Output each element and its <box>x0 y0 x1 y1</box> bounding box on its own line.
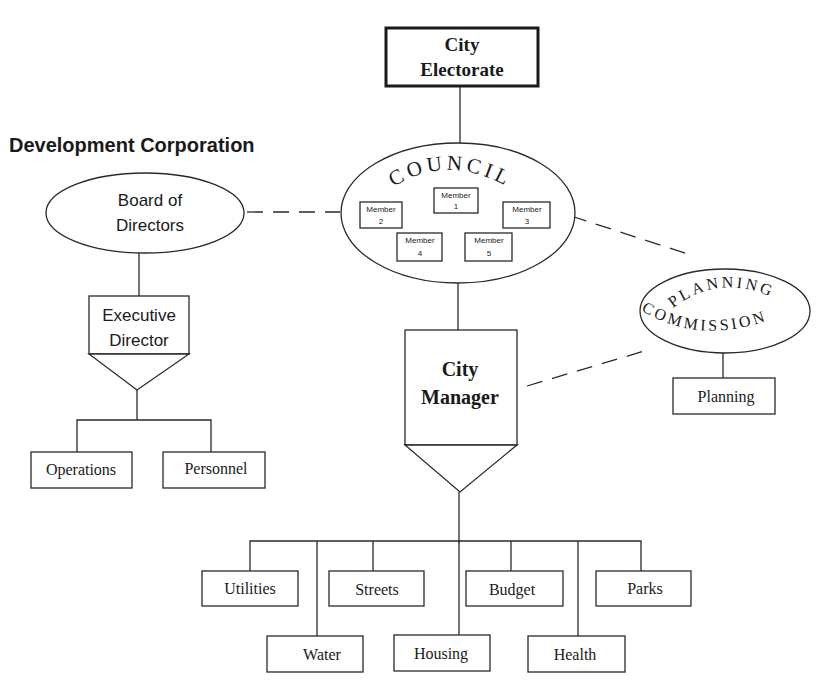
node-council[interactable]: COUNCIL Member 1 Member 2 Member 3 Membe… <box>341 143 575 283</box>
svg-text:Operations: Operations <box>46 461 116 479</box>
node-parks[interactable]: Parks <box>596 571 691 606</box>
node-health[interactable]: Health <box>528 636 625 672</box>
svg-text:1: 1 <box>454 202 459 211</box>
node-personnel[interactable]: Personnel <box>163 452 265 488</box>
svg-text:Member: Member <box>441 191 471 200</box>
node-planning[interactable]: Planning <box>673 378 775 414</box>
dashed-manager-commission <box>527 349 651 386</box>
svg-text:Budget: Budget <box>489 581 536 599</box>
executive-line1: Executive <box>102 306 176 325</box>
council-member-5[interactable]: Member 5 <box>465 233 512 261</box>
council-member-3[interactable]: Member 3 <box>503 202 550 228</box>
node-housing[interactable]: Housing <box>394 635 490 671</box>
node-city-electorate[interactable]: City Electorate <box>386 28 538 86</box>
node-city-manager[interactable]: City Manager <box>405 330 517 492</box>
svg-text:2: 2 <box>379 217 384 226</box>
electorate-line1: City <box>445 34 480 55</box>
svg-text:4: 4 <box>418 249 423 258</box>
executive-line2: Director <box>109 331 169 350</box>
council-member-1[interactable]: Member 1 <box>434 188 478 213</box>
board-line1: Board of <box>118 191 183 210</box>
council-member-2[interactable]: Member 2 <box>360 202 402 228</box>
svg-text:Member: Member <box>512 205 542 214</box>
page-title: Development Corporation <box>9 134 255 156</box>
electorate-line2: Electorate <box>420 59 503 80</box>
svg-text:Streets: Streets <box>355 581 399 598</box>
svg-text:Utilities: Utilities <box>224 580 276 597</box>
manager-line2: Manager <box>421 386 499 409</box>
org-chart: Development Corporation City Electorate … <box>0 0 834 697</box>
node-budget[interactable]: Budget <box>466 571 563 606</box>
svg-text:Health: Health <box>554 646 597 663</box>
council-member-4[interactable]: Member 4 <box>397 233 442 261</box>
svg-text:Parks: Parks <box>627 580 663 597</box>
svg-text:Housing: Housing <box>414 645 468 663</box>
svg-text:Member: Member <box>474 236 504 245</box>
node-executive-director[interactable]: Executive Director <box>89 296 189 390</box>
node-planning-commission[interactable]: PLANNING COMMISSION <box>640 269 810 353</box>
connector-executive-children <box>77 420 211 452</box>
dept-bus <box>250 541 641 571</box>
node-streets[interactable]: Streets <box>329 571 424 606</box>
node-board-of-directors[interactable]: Board of Directors <box>46 173 244 253</box>
svg-text:3: 3 <box>525 217 530 226</box>
node-water[interactable]: Water <box>267 636 363 672</box>
board-line2: Directors <box>116 216 184 235</box>
svg-text:Water: Water <box>303 646 341 663</box>
svg-text:5: 5 <box>487 249 492 258</box>
node-operations[interactable]: Operations <box>31 452 132 488</box>
node-utilities[interactable]: Utilities <box>202 571 298 606</box>
manager-line1: City <box>442 358 479 381</box>
svg-text:Planning: Planning <box>698 388 755 406</box>
svg-text:Personnel: Personnel <box>184 460 248 477</box>
dashed-council-commission <box>571 216 694 256</box>
svg-text:Member: Member <box>405 236 435 245</box>
svg-text:Member: Member <box>366 205 396 214</box>
